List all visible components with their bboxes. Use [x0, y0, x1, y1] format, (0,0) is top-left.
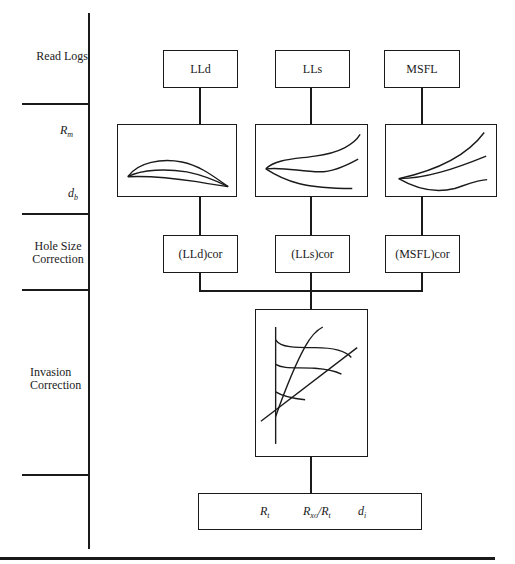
row-label-hole-size: Hole Size Correction [28, 240, 88, 266]
log-msfl-label: MSFL [406, 62, 437, 77]
connector-result [310, 456, 312, 493]
log-box-lls: LLs [275, 50, 350, 88]
tornado-chart-icon [256, 309, 367, 457]
cor-lls-label: (LLs)cor [291, 247, 334, 262]
lld-curves-icon [118, 124, 236, 197]
row-divider-1 [22, 103, 89, 105]
rm-sub: m [67, 130, 73, 139]
rt-sub: t [267, 511, 269, 520]
rt2-base: R [321, 504, 328, 518]
row-label-invasion: Invasion Correction [30, 366, 81, 392]
cor-box-msfl: (MSFL)cor [385, 235, 460, 273]
rt2-sub: t [329, 511, 331, 520]
cor-box-lls: (LLs)cor [275, 235, 350, 273]
row-divider-3 [22, 289, 89, 291]
join-horizontal [199, 290, 423, 292]
connector-lld-2 [199, 196, 201, 235]
read-logs-label: Read Logs [36, 49, 88, 63]
connector-lld-3 [199, 272, 201, 292]
result-box: Rt Rxo/Rt di [198, 493, 422, 530]
log-box-msfl: MSFL [384, 50, 460, 88]
row-divider-4 [22, 474, 89, 476]
log-lld-label: LLd [190, 62, 211, 77]
left-axis-line [88, 13, 90, 549]
cor-msfl-label: (MSFL)cor [395, 247, 450, 262]
connector-lls-1 [310, 87, 312, 124]
bottom-rule [0, 557, 495, 560]
connector-msfl-2 [421, 196, 423, 235]
log-lls-label: LLs [303, 62, 322, 77]
rxo-sub: xo [310, 511, 318, 520]
connector-lld-1 [199, 87, 201, 124]
invasion-line2: Correction [30, 379, 81, 392]
chart-box-lls [255, 124, 368, 197]
row-label-rm: Rm [60, 124, 73, 141]
db-sub: b [74, 193, 78, 202]
cor-lld-label: (LLd)cor [179, 247, 223, 262]
result-di: di [358, 504, 366, 520]
row-label-db: db [68, 187, 78, 204]
chart-box-lld [117, 124, 237, 197]
connector-msfl-3 [421, 272, 423, 292]
lls-curves-icon [256, 124, 367, 197]
connector-lls-2 [310, 196, 312, 235]
result-rt: Rt [260, 504, 270, 520]
row-divider-2 [22, 213, 89, 215]
connector-msfl-1 [421, 87, 423, 124]
invasion-chart-box [255, 309, 368, 457]
hole-size-line2: Correction [28, 253, 88, 266]
chart-box-msfl [385, 124, 497, 197]
cor-box-lld: (LLd)cor [163, 235, 238, 273]
msfl-curves-icon [386, 124, 496, 197]
di-sub: i [364, 511, 366, 520]
row-label-read-logs: Read Logs [30, 50, 88, 63]
result-rxo-rt: Rxo/Rt [303, 504, 331, 520]
log-box-lld: LLd [163, 50, 238, 88]
